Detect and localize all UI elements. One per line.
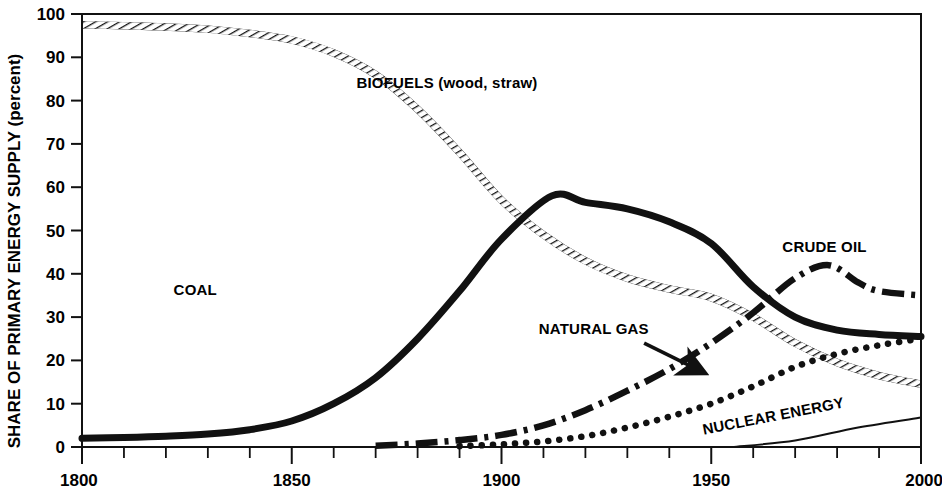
energy-share-line-chart: SHARE OF PRIMARY ENERGY SUPPLY (percent)… — [0, 0, 942, 488]
series-label-biofuels-wood-straw: BIOFUELS (wood, straw) — [356, 74, 537, 91]
series-label-crude-oil: CRUDE OIL — [782, 238, 866, 255]
series-label-coal: COAL — [174, 281, 217, 298]
chart-figure: SHARE OF PRIMARY ENERGY SUPPLY (percent)… — [0, 0, 942, 488]
series-label-natural-gas: NATURAL GAS — [539, 320, 649, 337]
